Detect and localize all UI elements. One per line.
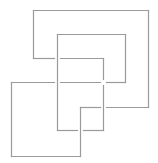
diagram-canvas xyxy=(0,0,158,163)
interlocking-squares-figure xyxy=(0,0,158,163)
lower-frame xyxy=(12,83,101,157)
outer-frame xyxy=(34,11,149,131)
